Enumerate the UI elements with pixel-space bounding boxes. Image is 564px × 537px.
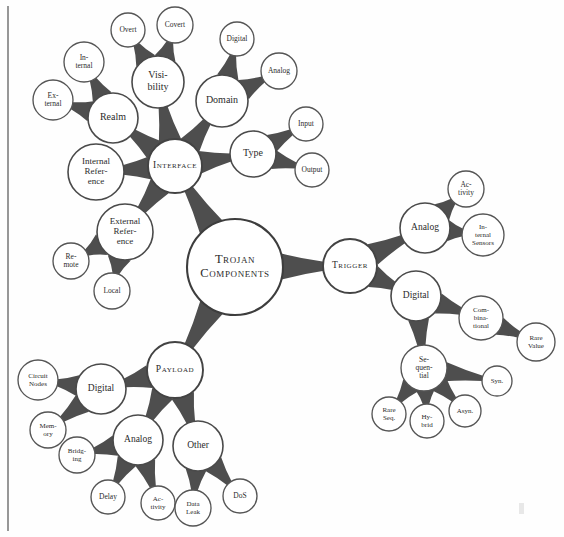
node-payload[interactable]: Payload	[147, 342, 203, 398]
node-trig-seq[interactable]: Se-quen-tial	[401, 345, 447, 391]
node-trigger[interactable]: Trigger	[323, 239, 377, 293]
node-label-dom-digital: Digital	[227, 34, 248, 43]
node-trig-activity[interactable]: Ac-tivity	[448, 171, 484, 207]
node-label-pay-digital: Digital	[88, 383, 115, 393]
node-realm-internal[interactable]: In-ternal	[64, 42, 104, 82]
node-pay-circuitnodes[interactable]: CircuitNodes	[18, 360, 58, 400]
node-label-interface: Interface	[153, 160, 197, 170]
node-vis-covert[interactable]: Covert	[157, 7, 193, 43]
node-label-pay-dos: DoS	[233, 491, 246, 500]
node-label-trig-rarevalue: RareValue	[528, 334, 544, 350]
node-label-pay-other: Other	[187, 440, 209, 450]
node-realm[interactable]: Realm	[88, 93, 138, 143]
node-label-trig-analog: Analog	[411, 222, 439, 232]
node-pay-dos[interactable]: DoS	[223, 479, 257, 513]
node-pay-other[interactable]: Other	[173, 421, 223, 471]
node-realm-external[interactable]: Ex-ternal	[33, 80, 73, 120]
node-label-payload: Payload	[156, 364, 194, 374]
node-trig-rarevalue[interactable]: RareValue	[517, 323, 555, 361]
node-pay-delay[interactable]: Delay	[91, 480, 125, 514]
trojan-taxonomy-diagram: TrojanComponentsInterfaceTriggerPayloadR…	[0, 0, 564, 537]
node-ext-local[interactable]: Local	[94, 273, 130, 309]
node-domain[interactable]: Domain	[196, 75, 248, 127]
node-pay-digital[interactable]: Digital	[76, 364, 126, 414]
node-label-trigger: Trigger	[332, 260, 368, 270]
node-ext-remote[interactable]: Re-mote	[53, 243, 89, 279]
node-pay-analog[interactable]: Analog	[113, 415, 163, 465]
node-label-pay-delay: Delay	[99, 492, 117, 501]
node-label-type-output: Output	[302, 165, 324, 174]
node-label-pay-analog: Analog	[124, 434, 152, 444]
node-pay-activity[interactable]: Ac-tivity	[141, 486, 175, 520]
page-corner-mark	[519, 503, 524, 514]
node-trig-hybrid[interactable]: Hy-brid	[410, 404, 444, 438]
node-trig-syn[interactable]: Syn.	[482, 366, 512, 396]
node-trig-sensors[interactable]: In-ternalSensors	[462, 214, 504, 256]
node-type-output[interactable]: Output	[295, 153, 329, 187]
node-label-realm: Realm	[100, 111, 126, 122]
node-label-type: Type	[243, 147, 263, 158]
node-trig-async[interactable]: Asyn.	[449, 395, 481, 427]
node-interface[interactable]: Interface	[148, 139, 202, 193]
node-label-domain: Domain	[206, 94, 238, 105]
node-label-trig-digital: Digital	[403, 290, 430, 300]
node-vis-overt[interactable]: Overt	[111, 13, 145, 47]
node-pay-dataleak[interactable]: DataLeak	[175, 490, 211, 526]
node-dom-digital[interactable]: Digital	[220, 22, 254, 56]
node-trig-digital[interactable]: Digital	[391, 271, 441, 321]
mindmap-canvas: TrojanComponentsInterfaceTriggerPayloadR…	[0, 0, 564, 537]
node-label-trig-hybrid: Hy-brid	[421, 413, 433, 429]
node-label-trig-syn: Syn.	[491, 377, 504, 385]
node-label-pay-dataleak: DataLeak	[186, 500, 200, 516]
node-label-dom-analog: Analog	[268, 66, 290, 75]
node-internal-ref[interactable]: InternalRefer-ence	[68, 144, 124, 200]
node-label-ext-local: Local	[103, 286, 120, 295]
node-pay-memory[interactable]: Mem-ory	[30, 412, 66, 448]
node-label-vis-overt: Overt	[119, 25, 137, 34]
node-type-input[interactable]: Input	[289, 107, 323, 141]
node-label-trig-comb: Com-bina-tional	[473, 306, 490, 330]
node-pay-bridging[interactable]: Bridg-ing	[59, 437, 95, 473]
node-trig-comb[interactable]: Com-bina-tional	[459, 296, 503, 340]
node-dom-analog[interactable]: Analog	[261, 53, 297, 89]
node-label-trig-async: Asyn.	[457, 407, 474, 415]
node-label-visibility: Visi-bility	[147, 70, 168, 92]
node-type[interactable]: Type	[230, 131, 276, 177]
node-label-pay-circuitnodes: CircuitNodes	[28, 372, 47, 388]
node-root[interactable]: TrojanComponents	[187, 219, 283, 315]
node-trig-rareseq[interactable]: RareSeq.	[372, 397, 406, 431]
node-trig-analog[interactable]: Analog	[400, 203, 450, 253]
node-external-ref[interactable]: ExternalRefer-ence	[97, 204, 153, 260]
node-label-vis-covert: Covert	[165, 20, 186, 29]
node-label-type-input: Input	[298, 119, 315, 128]
node-visibility[interactable]: Visi-bility	[132, 56, 184, 108]
node-label-trig-rareseq: RareSeq.	[382, 406, 395, 422]
